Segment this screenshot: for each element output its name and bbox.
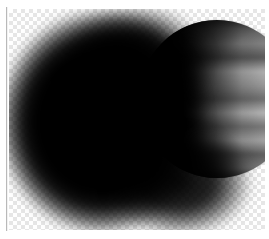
shadow-blob-lower-lobe [105,127,253,230]
left-panel-divider-highlight [7,7,8,231]
transparency-checkerboard-canvas[interactable] [9,9,265,230]
layer-stack [9,9,265,230]
shadow-blob-upper-lobe [61,9,211,133]
image-editor-canvas-view [0,0,269,239]
